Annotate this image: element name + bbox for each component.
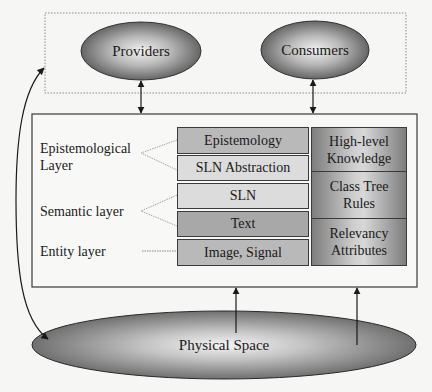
stack-cell-epistemology[interactable]: Epistemology <box>177 127 309 154</box>
providers-label: Providers <box>81 42 201 60</box>
knowledge-high-level-line2: Knowledge <box>327 150 392 167</box>
knowledge-cell-relevancy[interactable]: Relevancy Attributes <box>311 218 407 266</box>
stack-cell-sln[interactable]: SLN <box>177 183 309 209</box>
semantic-layer-label: Semantic layer <box>40 203 124 220</box>
knowledge-high-level-line1: High-level <box>327 133 392 150</box>
entity-layer-label: Entity layer <box>40 243 106 260</box>
knowledge-cell-class-tree[interactable]: Class Tree Rules <box>311 171 407 219</box>
epistemological-layer-label: Epistemological Layer <box>40 140 131 174</box>
stack-cell-sln-abstraction[interactable]: SLN Abstraction <box>177 155 309 181</box>
epistemological-layer-line1: Epistemological <box>40 140 131 157</box>
knowledge-cell-high-level[interactable]: High-level Knowledge <box>311 127 407 172</box>
stack-cell-text[interactable]: Text <box>177 211 309 237</box>
consumers-label: Consumers <box>261 41 369 59</box>
physical-space-label: Physical Space <box>124 336 324 354</box>
epistemological-layer-line2: Layer <box>40 157 131 174</box>
knowledge-class-tree-line2: Rules <box>330 195 389 212</box>
knowledge-relevancy-line1: Relevancy <box>329 225 388 242</box>
knowledge-class-tree-line1: Class Tree <box>330 178 389 195</box>
stack-cell-image-signal[interactable]: Image, Signal <box>177 239 309 266</box>
knowledge-relevancy-line2: Attributes <box>329 242 388 259</box>
